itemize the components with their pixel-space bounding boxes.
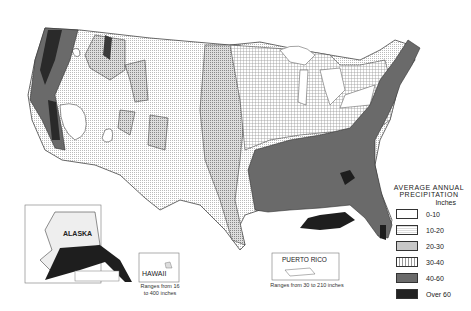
alaska-label: ALASKA (63, 230, 92, 237)
legend-swatch (396, 273, 418, 283)
legend-item: 0-10 (396, 206, 470, 222)
legend-item: 30-40 (396, 254, 470, 270)
legend-item: 20-30 (396, 238, 470, 254)
legend-unit: Inches (388, 199, 470, 206)
hawaii-label: HAWAII (142, 270, 166, 277)
legend-title-1: AVERAGE ANNUAL (388, 184, 470, 191)
legend: AVERAGE ANNUAL PRECIPITATION Inches 0-10… (388, 184, 470, 302)
hawaii-inset (139, 253, 179, 282)
legend-swatch (396, 289, 418, 299)
legend-title-2: PRECIPITATION (388, 191, 470, 198)
puerto-rico-caption: Ranges from 30 to 210 inches (262, 282, 352, 289)
legend-item: Over 60 (396, 286, 470, 302)
legend-item: 10-20 (396, 222, 470, 238)
legend-swatch (396, 257, 418, 267)
puerto-rico-label: PUERTO RICO (282, 256, 327, 263)
legend-item: 40-60 (396, 270, 470, 286)
hawaii-caption: Ranges from 16 to 400 inches (136, 283, 184, 297)
legend-swatch (396, 209, 418, 219)
legend-swatch (396, 225, 418, 235)
legend-swatch (396, 241, 418, 251)
